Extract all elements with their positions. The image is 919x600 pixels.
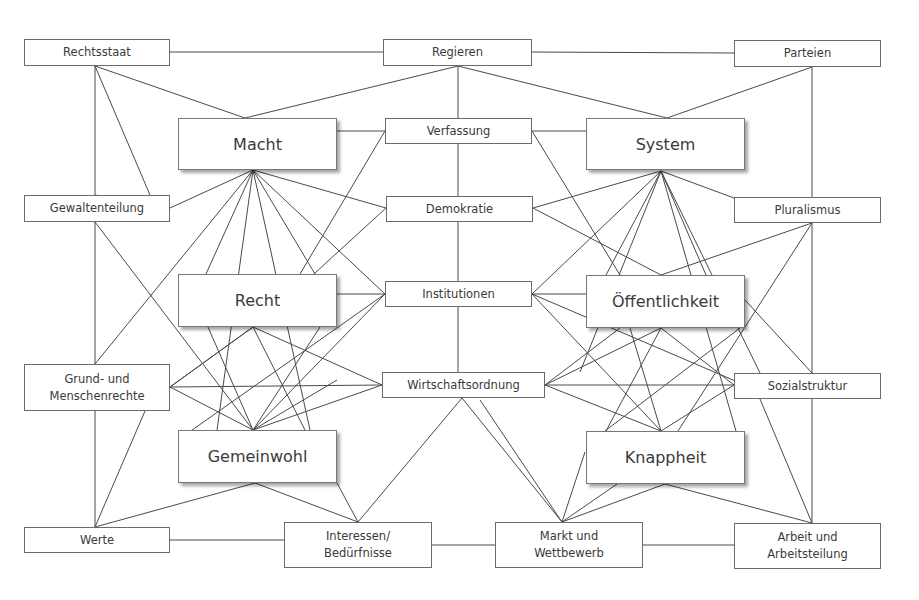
node-label: Knappheit <box>625 448 706 467</box>
node-label: Öffentlichkeit <box>612 292 719 311</box>
connector-line <box>95 483 255 527</box>
node-macht: Macht <box>178 118 337 170</box>
node-parteien: Parteien <box>734 40 881 67</box>
node-label: Recht <box>235 291 280 310</box>
connector-line <box>605 328 740 431</box>
connector-line <box>170 387 253 430</box>
connector-line <box>562 484 665 522</box>
connector-line <box>95 411 145 527</box>
connector-line <box>661 171 706 275</box>
node-markt: Markt und Wettbewerb <box>495 522 643 568</box>
node-rechtsstaat: Rechtsstaat <box>24 39 170 66</box>
connector-line <box>667 67 812 118</box>
node-label: Gemeinwohl <box>208 447 308 466</box>
node-label: Werte <box>80 532 114 549</box>
node-label: Pluralismus <box>774 202 840 219</box>
connector-line <box>358 398 462 522</box>
node-label: Institutionen <box>422 286 495 303</box>
node-system: System <box>586 118 745 170</box>
connector-line <box>458 66 667 118</box>
connector-line <box>580 171 661 372</box>
connector-line <box>245 66 458 118</box>
node-label: Markt und Wettbewerb <box>534 528 604 562</box>
connector-line <box>562 452 585 522</box>
connector-line <box>606 171 661 275</box>
node-demokratie: Demokratie <box>386 196 533 222</box>
connector-line <box>562 484 617 522</box>
connector-line <box>480 400 562 522</box>
connector-line <box>253 327 310 440</box>
connector-line <box>545 328 661 385</box>
connector-line <box>760 399 812 523</box>
node-label: Arbeit und Arbeitsteilung <box>767 529 848 563</box>
node-sozialstruktur: Sozialstruktur <box>734 373 881 399</box>
connector-line <box>661 385 734 431</box>
node-werte: Werte <box>24 527 170 553</box>
connector-line <box>170 170 253 208</box>
connector-line <box>545 385 661 431</box>
node-label: Rechtsstaat <box>63 44 131 61</box>
connector-line <box>253 170 315 274</box>
node-gemeinwohl: Gemeinwohl <box>178 430 337 483</box>
connector-line <box>606 328 661 431</box>
connector-line <box>630 328 661 431</box>
connector-line <box>545 328 620 385</box>
connector-line <box>255 483 358 522</box>
node-label: Gewaltenteilung <box>50 200 144 217</box>
node-pluralismus: Pluralismus <box>734 197 881 223</box>
connector-line <box>95 66 245 118</box>
node-recht: Recht <box>178 274 337 327</box>
node-institutionen: Institutionen <box>385 281 532 307</box>
connector-line <box>665 484 812 523</box>
node-gewaltenteilung: Gewaltenteilung <box>24 195 170 222</box>
node-interessen: Interessen/ Bedürfnisse <box>284 522 432 568</box>
node-arbeit: Arbeit und Arbeitsteilung <box>734 523 881 569</box>
node-oeffentlichkeit: Öffentlichkeit <box>586 275 745 328</box>
node-regieren: Regieren <box>383 39 532 66</box>
node-label: Macht <box>233 135 282 154</box>
node-verfassung: Verfassung <box>385 118 532 144</box>
connector-line <box>253 327 382 385</box>
node-label: System <box>636 135 696 154</box>
concept-map: RechtsstaatRegierenParteienMachtVerfassu… <box>0 0 919 600</box>
node-label: Verfassung <box>427 123 491 140</box>
connector-line <box>462 398 562 522</box>
node-wirtschaftsordnung: Wirtschaftsordnung <box>382 372 545 398</box>
node-label: Regieren <box>432 44 483 61</box>
node-label: Interessen/ Bedürfnisse <box>324 528 392 562</box>
node-grundrechte: Grund- und Menschenrechte <box>24 364 170 411</box>
connector-line <box>337 483 358 522</box>
node-label: Sozialstruktur <box>768 378 848 395</box>
node-label: Grund- und Menschenrechte <box>50 371 145 405</box>
connector-line <box>170 385 382 387</box>
connector-line <box>661 328 734 385</box>
connector-line <box>95 66 150 195</box>
node-label: Parteien <box>784 45 831 62</box>
node-label: Demokratie <box>426 201 493 218</box>
node-knappheit: Knappheit <box>586 431 745 484</box>
connector-line <box>532 52 734 53</box>
node-label: Wirtschaftsordnung <box>407 377 520 394</box>
